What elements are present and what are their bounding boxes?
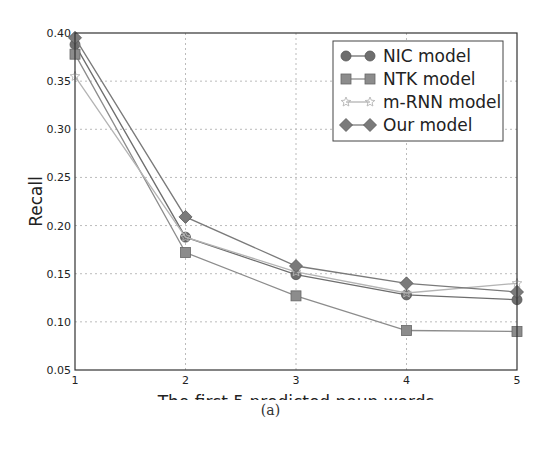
square-marker-icon	[402, 326, 412, 336]
y-tick-label: 0.35	[47, 75, 72, 88]
diamond-marker-icon	[400, 277, 413, 290]
x-tick-label: 4	[403, 374, 410, 387]
square-marker-icon	[291, 291, 301, 301]
legend-label: m-RNN model	[383, 92, 501, 112]
square-marker-icon	[365, 74, 375, 84]
x-tick-label: 5	[514, 374, 521, 387]
x-axis-label: The first 5 predicted noun words	[157, 392, 435, 400]
figure-caption: (a)	[0, 402, 541, 418]
x-tick-label: 2	[182, 374, 189, 387]
y-tick-label: 0.40	[47, 27, 72, 40]
y-tick-label: 0.30	[47, 123, 72, 136]
line-chart: 0.050.100.150.200.250.300.350.40 12345 T…	[0, 0, 541, 400]
diamond-marker-icon	[179, 210, 192, 223]
x-axis-ticks: 12345	[72, 374, 521, 387]
y-axis-label: Recall	[26, 176, 46, 227]
y-tick-label: 0.20	[47, 220, 72, 233]
x-tick-label: 1	[72, 374, 79, 387]
circle-marker-icon	[341, 51, 351, 61]
circle-marker-icon	[365, 51, 375, 61]
y-tick-label: 0.05	[47, 364, 72, 377]
legend-label: Our model	[383, 115, 472, 135]
legend-label: NTK model	[383, 69, 476, 89]
x-tick-label: 3	[293, 374, 300, 387]
y-tick-label: 0.10	[47, 316, 72, 329]
y-axis-ticks: 0.050.100.150.200.250.300.350.40	[47, 27, 72, 377]
y-tick-label: 0.25	[47, 171, 72, 184]
legend: NIC modelNTK modelm-RNN modelOur model	[333, 41, 503, 141]
y-tick-label: 0.15	[47, 268, 72, 281]
legend-label: NIC model	[383, 46, 471, 66]
square-marker-icon	[341, 74, 351, 84]
square-marker-icon	[181, 248, 191, 258]
